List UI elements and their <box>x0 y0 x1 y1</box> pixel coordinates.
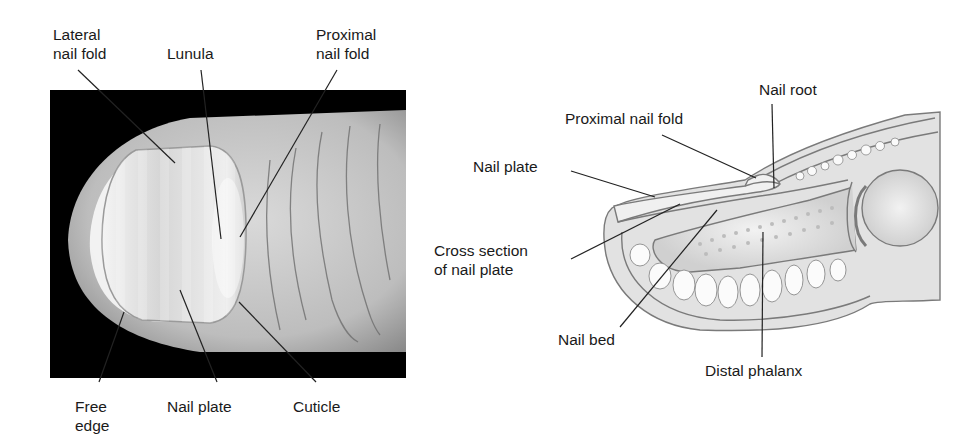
right-fade <box>880 100 967 330</box>
leader-nail-plate-right <box>571 171 655 197</box>
leader-lateral-nail-fold <box>78 70 175 163</box>
leader-proximal-nail-fold-right <box>662 135 756 178</box>
leader-nail-plate-left <box>180 290 217 382</box>
leader-cuticle <box>239 302 316 382</box>
label-nail-plate-photo: Nail plate <box>167 397 232 416</box>
nail-cross-section-illustration <box>0 0 967 440</box>
label-cuticle: Cuticle <box>293 397 340 416</box>
label-proximal-nail-fold-section: Proximal nail fold <box>565 109 683 128</box>
leader-lunula <box>201 70 221 239</box>
leader-proximal-nail-fold <box>240 70 337 237</box>
label-lateral-nail-fold: Lateral nail fold <box>53 25 106 63</box>
label-cross-section-of-nail-plate: Cross section of nail plate <box>434 241 528 279</box>
label-free-edge: Free edge <box>75 397 109 435</box>
label-nail-bed: Nail bed <box>558 330 615 349</box>
label-distal-phalanx: Distal phalanx <box>705 361 802 380</box>
label-nail-root: Nail root <box>759 80 817 99</box>
leader-free-edge <box>99 312 124 382</box>
label-nail-plate-section: Nail plate <box>473 157 538 176</box>
label-proximal-nail-fold: Proximal nail fold <box>316 25 376 63</box>
label-lunula: Lunula <box>167 44 214 63</box>
